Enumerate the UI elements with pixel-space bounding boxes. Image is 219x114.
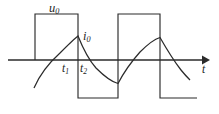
square-wave-voltage-trace (35, 14, 197, 98)
label-current-i0: i0 (83, 30, 91, 45)
label-time-t1-subscript: 1 (65, 67, 69, 76)
label-current-i0-subscript: 0 (86, 35, 90, 44)
label-time-t1: t1 (62, 63, 69, 76)
label-voltage-u0: u0 (49, 2, 59, 17)
label-time-t2: t2 (80, 63, 87, 76)
exponential-current-trace (34, 36, 190, 88)
label-time-axis-base: t (202, 63, 205, 75)
label-voltage-u0-subscript: 0 (55, 7, 59, 16)
waveform-figure: u0 i0 t1 t2 t (0, 0, 219, 114)
waveform-diagram (0, 0, 219, 114)
label-time-axis: t (202, 64, 205, 76)
label-time-t2-subscript: 2 (83, 67, 87, 76)
